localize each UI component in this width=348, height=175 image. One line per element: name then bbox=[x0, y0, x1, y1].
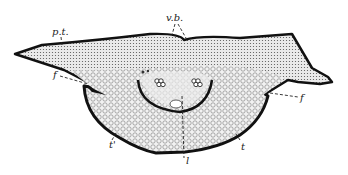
lumen bbox=[170, 100, 182, 108]
label-f-left: f bbox=[52, 69, 59, 80]
label-vb: v.b. bbox=[166, 12, 183, 23]
label-t: t bbox=[241, 141, 246, 152]
illustration: p.t. v.b. f f t' l t bbox=[0, 0, 348, 175]
label-l: l bbox=[186, 155, 189, 166]
label-pt: p.t. bbox=[52, 26, 69, 37]
label-f-right: f bbox=[299, 92, 306, 103]
label-t-prime: t' bbox=[109, 139, 116, 150]
cross-section-figure: p.t. v.b. f f t' l t bbox=[0, 0, 348, 175]
